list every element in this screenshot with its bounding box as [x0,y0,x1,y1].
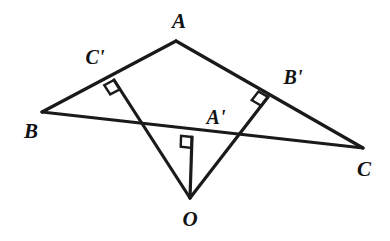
side-AB [42,41,176,112]
right-angle-marks-layer [104,80,268,148]
diagram-canvas [0,0,390,241]
vertex-label-a: A [172,11,186,32]
vertex-label-b: B [24,121,38,142]
vertex-label-b-prime: B' [284,67,303,87]
right-angle-at-c-prime [104,80,120,94]
vertex-label-a-prime: A' [207,107,226,127]
perp-O-Bp [190,97,268,198]
vertex-label-c-prime: C' [86,47,105,67]
side-AC [176,41,363,148]
geometry-figure: A B C O A' B' C' [0,0,390,241]
vertex-label-c: C [357,159,371,180]
vertex-label-o: O [182,209,197,230]
side-BC [42,112,363,148]
perp-O-Cp [114,80,190,198]
